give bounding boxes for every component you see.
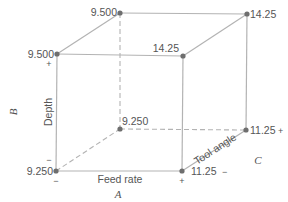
factor-b-letter: B [7, 108, 19, 115]
edge-back-top [120, 13, 247, 14]
edge-front-left [56, 54, 57, 171]
value-back-bottom-left: 9.250 [122, 115, 148, 127]
cube-plot: 9.500 14.25 9.500 14.25 9.250 11.25 9.25… [0, 0, 288, 202]
value-front-bottom-right: 11.25 [191, 165, 217, 177]
factor-a-letter: A [114, 188, 122, 200]
vertex-back-bottom-left [117, 126, 122, 131]
sign-depth-high: + [46, 59, 51, 69]
vertex-back-top-right [244, 11, 249, 16]
factor-a-name: Feed rate [98, 173, 143, 185]
sign-tool-angle-high: + [278, 126, 283, 136]
factor-c-name: Tool angle [191, 130, 238, 166]
vertex-back-top-left [117, 10, 122, 15]
sign-feed-rate-high: + [179, 176, 184, 186]
factor-c-letter: C [254, 154, 262, 166]
vertex-front-top-left [54, 51, 59, 56]
value-back-top-left: 9.500 [91, 6, 117, 18]
value-front-bottom-left: 9.250 [27, 165, 53, 177]
edge-top-left-depth [57, 13, 120, 54]
value-back-top-right: 14.25 [250, 8, 276, 20]
vertex-front-top-right [180, 53, 185, 58]
factor-b-name: Depth [42, 98, 54, 126]
cube-svg: 9.500 14.25 9.500 14.25 9.250 11.25 9.25… [0, 0, 288, 202]
edge-top-right-depth [183, 14, 247, 56]
sign-tool-angle-low: − [222, 167, 227, 177]
vertex-back-bottom-right [243, 127, 248, 132]
value-back-bottom-right: 11.25 [250, 124, 276, 136]
vertex-front-bottom-left [53, 168, 58, 173]
sign-feed-rate-low: − [53, 176, 58, 186]
value-front-top-right: 14.25 [153, 42, 179, 54]
vertex-front-bottom-right [179, 168, 184, 173]
sign-depth-low: − [46, 155, 51, 165]
edge-back-right [246, 14, 247, 130]
hidden-edge-bottom-left-depth [56, 129, 120, 171]
edge-front-right [182, 56, 183, 171]
hidden-edge-back-bottom [120, 129, 246, 130]
